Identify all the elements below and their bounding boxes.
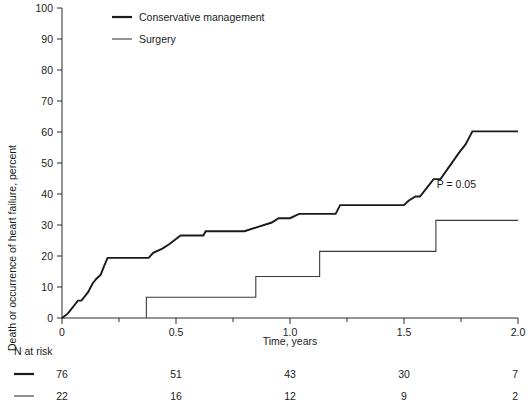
series-line-1 [62,131,518,318]
y-tick-label: 90 [41,33,53,45]
legend-label-2: Surgery [139,33,177,45]
y-tick-label: 20 [41,250,53,262]
y-axis-group: 0102030405060708090100 [35,2,62,324]
risk-count-r1-c3: 43 [284,368,296,380]
x-tick-label: 1.5 [397,326,412,338]
risk-count-r1-c5: 7 [512,368,518,380]
risk-count-r2-c3: 12 [284,390,296,402]
legend-label-1: Conservative management [139,11,265,23]
y-tick-label: 70 [41,95,53,107]
p-value-annotation: P = 0.05 [437,178,476,190]
survival-chart-svg: 0102030405060708090100 00.51.01.52.0 Dea… [0,0,528,403]
y-tick-label: 60 [41,126,53,138]
risk-table-title: N at risk [14,345,53,357]
y-axis-ticks: 0102030405060708090100 [35,2,62,324]
y-tick-label: 80 [41,64,53,76]
x-tick-label: 0 [59,326,65,338]
risk-count-r2-c5: 2 [512,390,518,402]
series-layer [62,131,518,318]
y-tick-label: 0 [47,312,53,324]
annotation-layer: P = 0.05 [437,178,476,190]
y-tick-label: 30 [41,219,53,231]
x-tick-label: 0.5 [169,326,184,338]
y-tick-label: 50 [41,157,53,169]
y-axis-title: Death or occurrence of heart failure, pe… [6,145,18,351]
y-tick-label: 100 [35,2,53,14]
risk-count-r2-c4: 9 [401,390,407,402]
chart-container: 0102030405060708090100 00.51.01.52.0 Dea… [0,0,528,403]
risk-count-r1-c2: 51 [170,368,182,380]
risk-count-r1-c1: 76 [56,368,68,380]
y-tick-label: 10 [41,281,53,293]
risk-count-r1-c4: 30 [398,368,410,380]
risk-count-r2-c2: 16 [170,390,182,402]
x-tick-label: 2.0 [511,326,526,338]
y-tick-label: 40 [41,188,53,200]
chart-legend: Conservative managementSurgery [112,11,265,45]
risk-count-r2-c1: 22 [56,390,68,402]
x-axis-title: Time, years [263,335,317,347]
risk-table: N at risk76514330722161292 [14,345,518,402]
